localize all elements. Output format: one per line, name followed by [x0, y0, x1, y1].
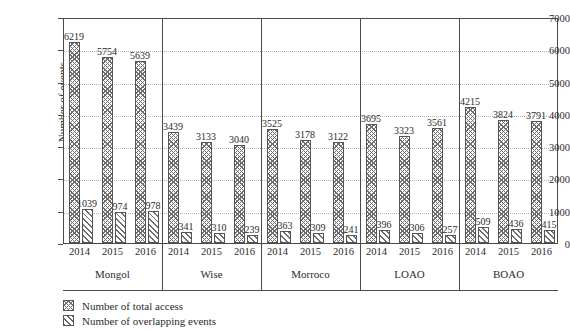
y-axis-tick-label: 4000 [528, 109, 570, 120]
bar-value-label: 4215 [460, 96, 480, 107]
legend-swatch-total-access-icon [63, 300, 74, 311]
bar-value-label: 306 [410, 222, 425, 233]
bar-total-access [432, 128, 443, 243]
bar-value-label: 3178 [295, 129, 315, 140]
plot-area: 6219103957549745639978343934131333103040… [63, 18, 558, 244]
bar-total-access [135, 61, 146, 243]
bar-overlapping-events [214, 233, 225, 243]
x-axis-group-label: BOAO [493, 268, 524, 280]
y-axis-tick-mark [58, 212, 63, 213]
bar-overlapping-events [82, 209, 93, 243]
bar-value-label: 974 [113, 201, 128, 212]
bar-value-label: 3439 [163, 121, 183, 132]
group-separator [162, 18, 163, 290]
x-axis-year-label: 2015 [102, 246, 123, 257]
legend: Number of total access Number of overlap… [63, 298, 216, 328]
x-axis-year-label: 2014 [465, 246, 486, 257]
bar-chart: Number of events 62191039575497456399783… [0, 0, 570, 332]
bar-overlapping-events [511, 229, 522, 243]
bar-value-label: 415 [542, 219, 557, 230]
x-axis-year-label: 2016 [432, 246, 453, 257]
legend-label: Number of overlapping events [82, 315, 216, 327]
legend-item: Number of overlapping events [63, 313, 216, 328]
group-separator [360, 18, 361, 290]
group-separator [459, 18, 460, 290]
bar-overlapping-events [478, 227, 489, 243]
x-axis-year-label: 2016 [333, 246, 354, 257]
bar-overlapping-events [412, 233, 423, 243]
bar-value-label: 3133 [196, 131, 216, 142]
bar-total-access [201, 142, 212, 243]
bar-value-label: 341 [179, 221, 194, 232]
x-axis-year-label: 2014 [267, 246, 288, 257]
bar-value-label: 509 [476, 216, 491, 227]
x-axis-year-label: 2015 [498, 246, 519, 257]
bar-total-access [465, 107, 476, 243]
legend-item: Number of total access [63, 298, 216, 313]
bar-value-label: 309 [311, 222, 326, 233]
bar-overlapping-events [148, 211, 159, 243]
bar-total-access [333, 142, 344, 243]
bar-value-label: 3122 [328, 131, 348, 142]
bar-total-access [234, 145, 245, 243]
bar-total-access [267, 129, 278, 243]
x-axis-group-label: LOAO [394, 268, 425, 280]
legend-label: Number of total access [82, 300, 183, 312]
bar-value-label: 310 [212, 222, 227, 233]
x-axis-year-label: 2015 [300, 246, 321, 257]
bar-value-label: 3695 [361, 113, 381, 124]
y-axis-tick-label: 1000 [528, 206, 570, 217]
y-axis-tick-mark [58, 115, 63, 116]
bar-value-label: 436 [509, 218, 524, 229]
bar-value-label: 257 [443, 224, 458, 235]
bar-value-label: 5639 [130, 50, 150, 61]
x-axis-group-label: Mongol [95, 268, 130, 280]
y-axis-tick-mark [58, 83, 63, 84]
bar-value-label: 239 [245, 224, 260, 235]
y-axis-tick-label: 2000 [528, 174, 570, 185]
bar-overlapping-events [247, 235, 258, 243]
y-axis-tick-mark [58, 18, 63, 19]
bar-overlapping-events [313, 233, 324, 243]
x-axis-year-label: 2015 [399, 246, 420, 257]
x-axis-group-label: Wise [200, 268, 222, 280]
y-axis-tick-mark [58, 179, 63, 180]
bar-overlapping-events [115, 212, 126, 243]
bar-value-label: 241 [344, 224, 359, 235]
y-axis-tick-label: 6000 [528, 45, 570, 56]
y-axis-tick-mark [58, 147, 63, 148]
x-axis-year-label: 2016 [135, 246, 156, 257]
bar-value-label: 3561 [427, 117, 447, 128]
bar-total-access [69, 42, 80, 243]
bar-value-label: 363 [278, 220, 293, 231]
x-axis-year-label: 2015 [201, 246, 222, 257]
bar-value-label: 1039 [77, 198, 97, 209]
x-axis-year-label: 2014 [168, 246, 189, 257]
bar-value-label: 3525 [262, 118, 282, 129]
y-axis-tick-label: 7000 [528, 13, 570, 24]
bar-value-label: 396 [377, 219, 392, 230]
group-label-underline [63, 290, 558, 291]
x-axis-year-label: 2016 [234, 246, 255, 257]
bar-total-access [366, 124, 377, 243]
x-axis-year-label: 2014 [366, 246, 387, 257]
y-axis-tick-label: 5000 [528, 77, 570, 88]
y-axis-tick-mark [58, 244, 63, 245]
bar-total-access [399, 136, 410, 243]
bar-overlapping-events [346, 235, 357, 243]
y-axis-tick-mark [58, 50, 63, 51]
x-axis-group-label: Morroco [291, 268, 330, 280]
bar-total-access [300, 140, 311, 243]
bar-value-label: 3824 [493, 109, 513, 120]
bar-value-label: 3323 [394, 125, 414, 136]
group-separator [261, 18, 262, 290]
y-axis-tick-label: 3000 [528, 142, 570, 153]
bar-value-label: 6219 [64, 31, 84, 42]
bar-value-label: 5754 [97, 46, 117, 57]
x-axis-year-label: 2014 [69, 246, 90, 257]
legend-swatch-overlapping-events-icon [63, 315, 74, 326]
bar-total-access [168, 132, 179, 243]
x-axis-year-label: 2016 [531, 246, 552, 257]
bar-total-access [102, 57, 113, 243]
bar-overlapping-events [280, 231, 291, 243]
